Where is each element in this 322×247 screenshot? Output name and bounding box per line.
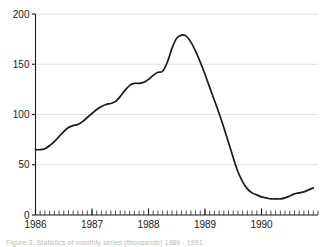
- x-tick-label: 1987: [81, 219, 104, 230]
- y-tick-label: 100: [13, 109, 30, 120]
- x-tick-label: 1990: [250, 219, 273, 230]
- y-tick-label: 150: [13, 59, 30, 70]
- figure-caption: Figure 3. Statistics of monthly series (…: [6, 239, 318, 247]
- y-tick-label: 50: [18, 159, 30, 170]
- y-tick-label: 200: [13, 9, 30, 20]
- x-tick-label: 1988: [137, 219, 160, 230]
- x-axis-minor-ticks: [36, 211, 319, 216]
- x-tick-label: 1989: [194, 219, 217, 230]
- x-tick-label: 1986: [24, 219, 47, 230]
